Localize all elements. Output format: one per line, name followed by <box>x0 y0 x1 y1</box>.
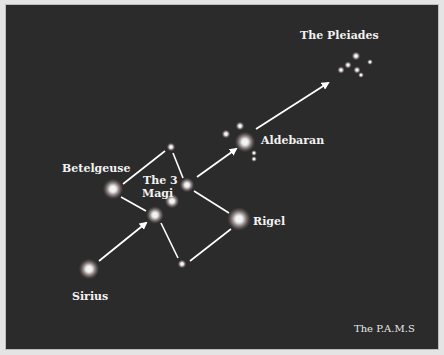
star-icon <box>180 178 195 193</box>
star-icon <box>235 132 256 153</box>
star-icon <box>251 156 257 162</box>
connector-line <box>161 223 178 258</box>
label-rigel: Rigel <box>253 216 285 228</box>
star-icon <box>367 59 373 65</box>
star-icon <box>358 72 364 78</box>
label-pleiades: The Pleiades <box>300 30 379 42</box>
star-icon <box>103 179 124 200</box>
arrow <box>197 149 236 177</box>
star-icon <box>251 150 257 156</box>
star-chart: The Pleiades Aldebaran Betelgeuse The 3 … <box>5 4 439 350</box>
connector-line <box>190 229 231 261</box>
label-magi-line1: The 3 <box>143 175 178 187</box>
star-icon <box>222 130 231 139</box>
star-icon <box>79 259 100 280</box>
star-icon <box>337 66 345 74</box>
label-magi-line2: Magi <box>142 188 173 200</box>
star-icon <box>236 122 245 131</box>
arrow <box>99 223 146 261</box>
pointer-arrows <box>99 83 328 261</box>
star-icon <box>167 143 176 152</box>
star-icon <box>227 207 251 231</box>
connector-line <box>194 191 229 213</box>
label-betelgeuse: Betelgeuse <box>62 163 130 175</box>
star-icon <box>146 206 164 224</box>
arrow <box>256 83 328 129</box>
star-icon <box>178 260 187 269</box>
credit-text: The P.A.M.S <box>354 323 415 335</box>
label-aldebaran: Aldebaran <box>261 135 324 147</box>
label-sirius: Sirius <box>72 291 108 303</box>
star-icon <box>352 52 361 61</box>
star-icon <box>344 61 352 69</box>
